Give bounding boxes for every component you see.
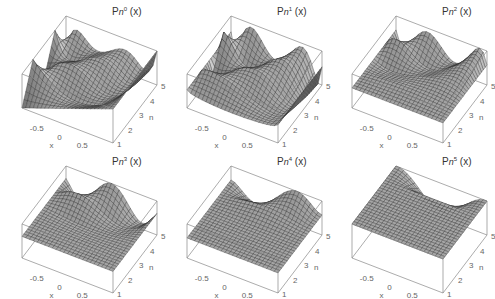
surface-plot: -0.500.5x 12345n — [330, 150, 495, 299]
title-arg: (x) — [295, 6, 307, 17]
surface-mesh — [22, 178, 157, 271]
title-sup: 3 — [124, 156, 127, 162]
surface-plot-panel-m3: -0.500.5x 12345n Pn3 (x) — [0, 150, 165, 299]
title-arg: (x) — [130, 6, 142, 17]
x-tick-label: 0.5 — [407, 291, 419, 299]
n-tick-label: 4 — [315, 247, 320, 256]
surface-plot-panel-m1: -0.500.5x 12345n Pn1 (x) — [165, 0, 330, 150]
x-axis-label: x — [50, 141, 54, 150]
surface-plot: -0.500.5x 12345n — [0, 150, 165, 299]
n-tick-label: 5 — [491, 232, 495, 241]
n-tick-label: 2 — [128, 126, 133, 135]
title-arg: (x) — [295, 156, 307, 167]
surface-plot-panel-m4: -0.500.5x 12345n Pn4 (x) — [165, 150, 330, 299]
x-tick-label: 0 — [222, 283, 227, 292]
n-tick-label: 2 — [458, 126, 463, 135]
x-axis-ticks: -0.500.5x — [30, 274, 89, 299]
n-tick-label: 3 — [469, 111, 474, 120]
x-axis-label: x — [215, 141, 219, 150]
n-tick-label: 4 — [150, 247, 155, 256]
n-axis-label: n — [479, 263, 483, 272]
n-tick-label: 1 — [447, 290, 452, 299]
n-axis-label: n — [479, 113, 483, 122]
x-tick-label: 0.5 — [77, 291, 89, 299]
panel-title: Pn2 (x) — [442, 6, 471, 17]
x-tick-label: -0.5 — [30, 124, 44, 133]
n-axis-label: n — [149, 113, 153, 122]
n-tick-label: 5 — [491, 82, 495, 91]
surface-plot-panel-m5: -0.500.5x 12345n Pn5 (x) — [330, 150, 495, 299]
surface-plot: -0.500.5x 12345n — [330, 0, 495, 150]
x-tick-label: -0.5 — [360, 124, 374, 133]
x-tick-label: -0.5 — [30, 274, 44, 283]
title-sup: 0 — [124, 6, 127, 12]
n-tick-label: 2 — [293, 276, 298, 285]
n-tick-label: 1 — [282, 290, 287, 299]
surface-mesh — [187, 180, 322, 273]
x-tick-label: 0 — [222, 133, 227, 142]
title-base: P — [277, 6, 284, 17]
x-tick-label: -0.5 — [195, 124, 209, 133]
x-axis-ticks: -0.500.5x — [30, 124, 89, 151]
x-axis-ticks: -0.500.5x — [360, 124, 419, 151]
panel-title: Pn5 (x) — [442, 156, 471, 167]
title-base: P — [442, 156, 449, 167]
x-axis-label: x — [380, 141, 384, 150]
n-tick-label: 3 — [139, 261, 144, 270]
title-arg: (x) — [130, 156, 142, 167]
x-axis-ticks: -0.500.5x — [360, 274, 419, 299]
surface-mesh — [22, 30, 157, 109]
n-tick-label: 1 — [447, 140, 452, 149]
n-tick-label: 3 — [469, 261, 474, 270]
n-tick-label: 3 — [139, 111, 144, 120]
surface-plot: -0.500.5x 12345n — [165, 0, 330, 150]
title-sup: 4 — [289, 156, 292, 162]
surface-plot: -0.500.5x 12345n — [165, 150, 330, 299]
x-axis-label: x — [380, 291, 384, 299]
panel-title: Pn4 (x) — [277, 156, 306, 167]
x-tick-label: 0.5 — [242, 291, 254, 299]
x-tick-label: -0.5 — [195, 274, 209, 283]
x-axis-ticks: -0.500.5x — [195, 124, 254, 151]
x-tick-label: -0.5 — [360, 274, 374, 283]
surface-mesh — [352, 30, 487, 123]
surface-plot-panel-m2: -0.500.5x 12345n Pn2 (x) — [330, 0, 495, 150]
n-tick-label: 3 — [304, 111, 309, 120]
surface-plot: -0.500.5x 12345n — [0, 0, 165, 150]
title-sup: 5 — [454, 156, 457, 162]
panel-title: Pn0 (x) — [112, 6, 141, 17]
x-tick-label: 0.5 — [77, 141, 89, 150]
x-axis-label: x — [215, 291, 219, 299]
n-tick-label: 3 — [304, 261, 309, 270]
n-tick-label: 2 — [458, 276, 463, 285]
n-tick-label: 4 — [480, 97, 485, 106]
x-tick-label: 0 — [57, 133, 62, 142]
x-axis-ticks: -0.500.5x — [195, 274, 254, 299]
title-base: P — [112, 156, 119, 167]
x-tick-label: 0.5 — [407, 141, 419, 150]
surface-plot-panel-m0: -0.500.5x 12345n Pn0 (x) — [0, 0, 165, 150]
n-tick-label: 1 — [117, 140, 122, 149]
x-tick-label: 0 — [387, 283, 392, 292]
panel-title: Pn3 (x) — [112, 156, 141, 167]
title-arg: (x) — [460, 6, 472, 17]
panel-title: Pn1 (x) — [277, 6, 306, 17]
title-sup: 2 — [454, 6, 457, 12]
surface-mesh — [187, 27, 322, 126]
n-tick-label: 4 — [315, 97, 320, 106]
title-base: P — [112, 6, 119, 17]
x-tick-label: 0.5 — [242, 141, 254, 150]
n-axis-label: n — [314, 263, 318, 272]
n-tick-label: 4 — [150, 97, 155, 106]
n-tick-label: 1 — [282, 140, 287, 149]
n-axis-label: n — [314, 113, 318, 122]
title-base: P — [442, 6, 449, 17]
title-arg: (x) — [460, 156, 472, 167]
x-tick-label: 0 — [387, 133, 392, 142]
title-sup: 1 — [289, 6, 292, 12]
n-tick-label: 4 — [480, 247, 485, 256]
x-axis-label: x — [50, 291, 54, 299]
n-axis-label: n — [149, 263, 153, 272]
n-tick-label: 2 — [128, 276, 133, 285]
surface-mesh — [352, 166, 487, 259]
